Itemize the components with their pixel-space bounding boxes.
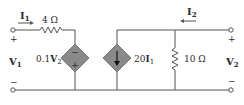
resistor-10ohm (172, 48, 178, 70)
label-4ohm: 4 Ω (42, 15, 58, 25)
port1-plus: + (10, 34, 18, 44)
terminal-port1-bottom (11, 88, 15, 92)
terminal-port2-bottom (229, 88, 233, 92)
svg-text:+: + (71, 60, 79, 70)
terminal-port1-top (11, 28, 15, 32)
dependent-current-source-icon (103, 44, 131, 72)
label-20i1: 20I1 (134, 54, 154, 66)
resistor-4ohm (40, 27, 62, 33)
label-v1: V1 (8, 56, 22, 69)
port1-minus: − (10, 77, 18, 87)
dependent-voltage-source-icon: − + (61, 44, 89, 72)
label-10ohm: 10 Ω (184, 54, 206, 64)
terminal-port2-top (229, 28, 233, 32)
label-i1: I1 (20, 10, 30, 23)
circuit-diagram: − + I1 4 Ω + V1 − 0.1V2 20I1 10 Ω I2 + V… (0, 0, 244, 105)
port2-plus: + (228, 34, 236, 44)
label-0.1v2: 0.1V2 (36, 54, 62, 66)
svg-text:−: − (71, 47, 79, 57)
label-i2: I2 (187, 6, 197, 19)
port2-minus: − (228, 76, 236, 86)
label-v2: V2 (225, 56, 239, 69)
